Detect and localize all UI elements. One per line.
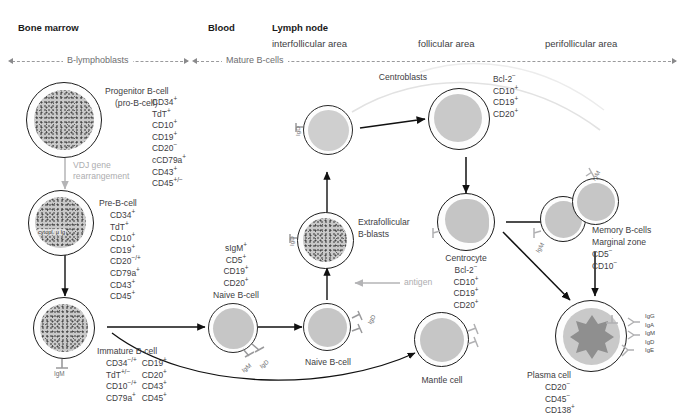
markers-centroblasts: Bcl-2− CD10+ CD19+ CD20+ xyxy=(493,74,518,120)
ig-item: IgD xyxy=(645,338,655,347)
marker-item: TdT+ xyxy=(110,222,141,234)
track-arrow-left-2 xyxy=(192,58,197,64)
marker-item: CD10+ xyxy=(152,120,186,132)
cell-naive-b-cell-node xyxy=(303,303,351,351)
plasma-ig-list: IgG IgA IgM IgD IgE xyxy=(645,312,655,355)
marker-item: Bcl-2− xyxy=(425,265,507,277)
surface-ig-naive-node-igd: IgD xyxy=(366,313,377,325)
markers-naive-blood: sIgM+ CD5+ CD19+ CD20+ xyxy=(200,243,272,289)
marker-item: CD20+ xyxy=(425,300,507,312)
surface-ig-upper-naive-igd: IgD xyxy=(294,126,301,136)
marker-item: CD20+ xyxy=(200,278,272,290)
track-arrow-right-1 xyxy=(184,58,189,64)
label-naive-b-cell-blood: Naive B-cell xyxy=(196,290,276,301)
markers-plasma-cell: CD20− CD45− CD138+ xyxy=(545,382,575,416)
figure-canvas: Bone marrow Blood Lymph node interfollic… xyxy=(0,0,687,416)
marker-item: TdT+ xyxy=(152,109,186,121)
marker-item: CD10+ xyxy=(425,277,507,289)
label-centroblasts: Centroblasts xyxy=(357,72,427,83)
ig-item: IgA xyxy=(645,321,655,330)
markers-immature-b-cell: CD34−/+CD19+ TdT+/−CD20+ CD10−/+CD43+ CD… xyxy=(106,358,167,404)
plasma-nucleus-shape xyxy=(556,301,628,373)
label-memory-b-cells: Memory B-cells xyxy=(592,225,651,236)
track-label-b-lymphoblasts: B-lymphoblasts xyxy=(63,55,133,65)
marker-item: CD45+ xyxy=(110,291,141,303)
marker-item: CD10+ xyxy=(110,233,141,245)
marker-item: CD138+ xyxy=(545,405,575,416)
annotation-vdj-line1: VDJ gene xyxy=(73,160,111,171)
label-progenitor-b-cell: Progenitor B-cell xyxy=(105,86,169,97)
marker-item: CD45+ xyxy=(142,393,167,405)
marker-item: CD79a+ xyxy=(106,393,137,405)
cell-centrocyte xyxy=(437,193,495,251)
marker-item: CD43+ xyxy=(110,280,141,292)
markers-memory-b-cells: CD5− CD10− xyxy=(592,249,617,272)
marker-item: CD20− xyxy=(545,382,575,394)
heading-perifollicular-area: perifollicular area xyxy=(545,38,617,49)
surface-ig-naive-blood-igd: IgD xyxy=(258,358,270,369)
label-mantle-cell: Mantle cell xyxy=(402,375,482,386)
marker-item: CD45+/− xyxy=(152,178,186,190)
cell-extrafollicular-b-blasts xyxy=(297,212,354,269)
marker-item: CD10− xyxy=(592,261,617,273)
cell-centroblasts xyxy=(428,88,490,150)
cell-pre-b-cell: cytopl. μ Ig xyxy=(28,190,94,256)
label-extrafollicular-line2: B-blasts xyxy=(358,229,389,240)
cell-naive-b-cell-upper xyxy=(303,105,353,155)
label-pre-b-cytoplasmic-ig: cytopl. μ Ig xyxy=(37,229,66,235)
surface-ig-extrafollicular-igd: IgD xyxy=(288,236,295,246)
cell-mantle-cell xyxy=(414,312,469,367)
marker-item: CD79a+ xyxy=(110,268,141,280)
markers-progenitor-b-cell: CD34+ TdT+ CD10+ CD19+ CD20− cCD79a+ CD4… xyxy=(152,97,186,190)
cell-immature-b-cell xyxy=(33,297,95,359)
track-label-mature-b-cells: Mature B-cells xyxy=(222,55,288,65)
ig-item: IgG xyxy=(645,312,655,321)
cell-plasma-cell xyxy=(555,300,627,372)
label-extrafollicular-line1: Extrafollicular xyxy=(358,217,410,228)
heading-bone-marrow: Bone marrow xyxy=(18,22,79,33)
marker-item: CD19+ xyxy=(200,266,272,278)
markers-centrocyte: Bcl-2− CD10+ CD19+ CD20+ xyxy=(425,265,507,311)
surface-ig-immature-igm: IgM xyxy=(54,370,65,377)
heading-lymph-node: Lymph node xyxy=(272,22,328,33)
track-arrow-right-2 xyxy=(672,58,677,64)
heading-follicular-area: follicular area xyxy=(418,38,475,49)
heading-blood: Blood xyxy=(208,22,235,33)
cell-naive-b-cell-blood xyxy=(208,303,258,353)
marker-item: CD19+ xyxy=(425,288,507,300)
marker-item: sIgM+ xyxy=(200,243,272,255)
marker-item: cCD79a+ xyxy=(152,155,186,167)
label-memory-marginal-zone: Marginal zone xyxy=(592,237,646,248)
cell-memory-b-cell-right xyxy=(572,178,619,225)
marker-item: CD20+ xyxy=(493,109,518,121)
ig-item: IgE xyxy=(645,346,655,355)
label-centrocyte: Centrocyte xyxy=(425,253,507,264)
surface-ig-naive-blood-igm: IgM xyxy=(240,362,252,374)
annotation-vdj-line2: rearrangement xyxy=(73,171,129,182)
marker-item: CD20− xyxy=(152,143,186,155)
marker-item: CD5+ xyxy=(200,255,272,267)
markers-pre-b-cell: CD34+ TdT+ CD10+ CD19+ CD20−/+ CD79a+ CD… xyxy=(110,210,141,303)
marker-item: CD19+ xyxy=(152,132,186,144)
track-arrow-left-1 xyxy=(8,58,13,64)
surface-ig-memory-igm-left: IgM xyxy=(534,241,545,253)
label-plasma-cell: Plasma cell xyxy=(527,370,571,381)
heading-interfollicular-area: interfollicular area xyxy=(272,38,347,49)
label-naive-b-cell-node: Naive B-cell xyxy=(292,357,364,368)
cell-progenitor-b-cell xyxy=(26,82,102,158)
ig-item: IgM xyxy=(645,329,655,338)
